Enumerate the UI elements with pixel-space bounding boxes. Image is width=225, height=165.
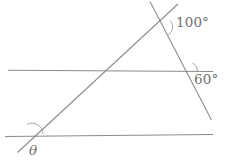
arc-100-degrees [168,21,172,35]
angle-label-theta: θ [29,144,37,158]
angle-label-100: 100° [176,16,209,30]
angle-label-60: 60° [194,73,218,87]
arc-60-degrees [193,63,198,71]
geometry-figure: 100° 60° θ [0,0,225,165]
rising-transversal-line [18,4,179,153]
arc-theta [27,123,43,134]
upper-horizontal-line [8,70,213,71]
